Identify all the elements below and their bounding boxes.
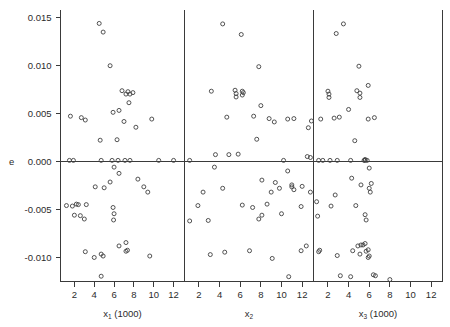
x-tick-label: 8 bbox=[258, 289, 263, 300]
data-point bbox=[308, 190, 312, 194]
data-point bbox=[102, 186, 106, 190]
data-point bbox=[292, 117, 296, 121]
data-point bbox=[341, 22, 345, 26]
y-tick-label: 0.000 bbox=[28, 156, 52, 167]
data-point bbox=[146, 190, 150, 194]
data-point bbox=[124, 241, 128, 245]
x-tick-label: 10 bbox=[276, 289, 287, 300]
x-tick-label: 8 bbox=[131, 289, 136, 300]
data-points bbox=[64, 21, 175, 278]
data-point bbox=[367, 186, 371, 190]
data-point bbox=[142, 185, 146, 189]
panel-x2: 24681012x2 bbox=[188, 22, 314, 320]
data-point bbox=[372, 116, 376, 120]
data-point bbox=[120, 89, 124, 93]
data-point bbox=[117, 171, 121, 175]
x-tick-label: 10 bbox=[148, 289, 159, 300]
y-axis-label: e bbox=[9, 156, 14, 167]
data-point bbox=[363, 213, 367, 217]
data-point bbox=[112, 218, 116, 222]
data-point bbox=[83, 118, 87, 122]
data-point bbox=[251, 205, 255, 209]
scatter-panels-svg: 0.0150.0100.0050.000-0.005-0.010e2468101… bbox=[0, 0, 450, 327]
data-point bbox=[292, 188, 296, 192]
x-tick-label: 6 bbox=[111, 289, 116, 300]
data-points bbox=[315, 22, 392, 282]
x-tick-label: 6 bbox=[367, 289, 372, 300]
data-point bbox=[213, 153, 217, 157]
data-point bbox=[206, 218, 210, 222]
panel-x1: 24681012x1 (1000) bbox=[64, 21, 178, 320]
x-tick-label: 12 bbox=[168, 289, 179, 300]
data-point bbox=[273, 181, 277, 185]
data-point bbox=[79, 116, 83, 120]
data-point bbox=[240, 203, 244, 207]
y-tick-label: 0.015 bbox=[28, 12, 52, 23]
x-tick-label: 4 bbox=[217, 289, 222, 300]
data-point bbox=[260, 178, 264, 182]
x-tick-label: 2 bbox=[325, 289, 330, 300]
data-point bbox=[269, 190, 273, 194]
data-point bbox=[92, 255, 96, 259]
data-point bbox=[225, 115, 229, 119]
data-point bbox=[236, 152, 240, 156]
x-tick-label: 10 bbox=[405, 289, 416, 300]
data-point bbox=[280, 212, 284, 216]
data-point bbox=[354, 204, 358, 208]
data-point bbox=[93, 185, 97, 189]
x-tick-label: 4 bbox=[92, 289, 97, 300]
data-point bbox=[267, 117, 271, 121]
data-point bbox=[68, 114, 72, 118]
data-point bbox=[300, 184, 304, 188]
data-point bbox=[286, 169, 290, 173]
data-point bbox=[366, 83, 370, 87]
data-point bbox=[83, 250, 87, 254]
data-point bbox=[351, 249, 355, 253]
data-point bbox=[359, 183, 363, 187]
data-point bbox=[127, 101, 131, 105]
data-point bbox=[338, 274, 342, 278]
data-point bbox=[367, 166, 371, 170]
data-point bbox=[334, 32, 338, 36]
data-point bbox=[201, 190, 205, 194]
x-axis-title: x2 bbox=[245, 308, 254, 321]
data-point bbox=[315, 200, 319, 204]
data-point bbox=[270, 256, 274, 260]
residual-plot-figure: 0.0150.0100.0050.000-0.005-0.010e2468101… bbox=[0, 0, 450, 327]
data-point bbox=[64, 204, 68, 208]
data-point bbox=[299, 205, 303, 209]
data-point bbox=[257, 217, 261, 221]
data-point bbox=[337, 115, 341, 119]
data-point bbox=[260, 213, 264, 217]
data-point bbox=[134, 125, 138, 129]
y-tick-label: -0.005 bbox=[25, 204, 52, 215]
data-point bbox=[117, 244, 121, 248]
data-point bbox=[255, 137, 259, 141]
data-point bbox=[221, 186, 225, 190]
data-point bbox=[358, 95, 362, 99]
data-point bbox=[329, 204, 333, 208]
data-point bbox=[78, 214, 82, 218]
data-point bbox=[358, 91, 362, 95]
data-point bbox=[108, 64, 112, 68]
data-point bbox=[333, 193, 337, 197]
data-point bbox=[309, 119, 313, 123]
data-point bbox=[148, 254, 152, 258]
data-point bbox=[369, 181, 373, 185]
panel-x3: 24681012x3 (1000) bbox=[315, 22, 437, 320]
data-point bbox=[98, 138, 102, 142]
data-point bbox=[358, 252, 362, 256]
x-tick-label: 2 bbox=[72, 289, 77, 300]
x-tick-label: 12 bbox=[426, 289, 437, 300]
data-point bbox=[97, 21, 101, 25]
data-point bbox=[72, 213, 76, 217]
data-point bbox=[349, 275, 353, 279]
data-point bbox=[112, 212, 116, 216]
data-point bbox=[272, 120, 276, 124]
data-point bbox=[188, 219, 192, 223]
y-tick-label: -0.010 bbox=[25, 252, 52, 263]
data-point bbox=[111, 110, 115, 114]
data-point bbox=[335, 254, 339, 258]
data-point bbox=[299, 249, 303, 253]
y-tick-label: 0.005 bbox=[28, 108, 52, 119]
